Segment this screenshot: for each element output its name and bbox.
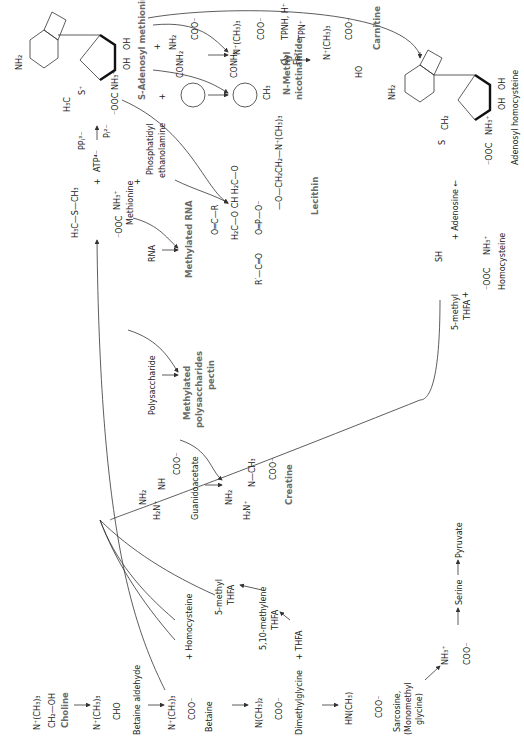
svg-text:+ Homocysteine: + Homocysteine: [185, 594, 194, 660]
arrow: [425, 666, 440, 680]
svg-text:glycine): glycine): [415, 693, 424, 725]
svg-text:THFA: THFA: [463, 299, 472, 321]
svg-text:CHO: CHO: [113, 702, 122, 720]
svg-text:N—CH₃: N—CH₃: [248, 458, 257, 487]
arrow-betaine-to-methionine: [97, 240, 165, 690]
svg-text:NH₃⁺: NH₃⁺: [113, 191, 122, 210]
svg-text:+: +: [133, 178, 142, 185]
arrow: [133, 218, 178, 248]
choline: N⁺(CH₃)₃ CH₂—OH Choline: [33, 692, 70, 730]
svg-text:N⁺(CH₃)₃: N⁺(CH₃)₃: [93, 696, 102, 730]
svg-text:O═C—R: O═C—R: [211, 204, 220, 235]
svg-text:PPᵢ³⁻: PPᵢ³⁻: [78, 131, 87, 150]
pyruvate-label: Pyruvate: [455, 522, 464, 558]
svg-text:N(CH₃)₂: N(CH₃)₂: [255, 698, 264, 728]
svg-text:THFA: THFA: [227, 584, 236, 606]
adenosine-label: + Adenosine ←: [451, 180, 460, 240]
svg-text:polysaccharides: polysaccharides: [194, 351, 204, 428]
svg-text:+ THFA: + THFA: [295, 630, 304, 660]
arrow-homocysteine-loop: [420, 300, 440, 400]
svg-text:CH₃: CH₃: [263, 85, 272, 100]
ribose-ring: [458, 75, 475, 120]
arrow: [100, 520, 175, 620]
arrow-sam-to-lecithin: [122, 100, 228, 203]
svg-text:NH₂: NH₂: [388, 85, 397, 100]
svg-text:COO⁻: COO⁻: [345, 18, 354, 40]
methyl-thfa-right: 5-methyl THFA +: [451, 291, 472, 330]
svg-text:H₂C—O CH H₂C—O: H₂C—O CH H₂C—O: [231, 165, 240, 240]
phosphatidyl-ethanolamine: + Phosphatidyl ethanolamine: [133, 123, 167, 185]
purine-ring: [405, 65, 434, 102]
methylated-rna-label: Methylated RNA: [184, 200, 194, 278]
svg-text:NH₃⁺: NH₃⁺: [441, 646, 450, 665]
svg-text:Carnitine: Carnitine: [372, 6, 382, 50]
thfa-cofactors: 5,10-methylene THFA 5-methyl THFA: [215, 579, 280, 650]
svg-text:Methylated: Methylated: [182, 366, 192, 420]
svg-text:Lecithin: Lecithin: [310, 177, 320, 215]
svg-text:5-methyl: 5-methyl: [451, 294, 460, 330]
svg-text:N⁺(CH₃)₃: N⁺(CH₃)₃: [168, 696, 177, 730]
svg-text:Creatine: Creatine: [284, 464, 294, 505]
svg-text:OH: OH: [498, 78, 507, 90]
svg-text:⁻OOC: ⁻OOC: [485, 142, 494, 165]
rna-label: RNA: [148, 244, 157, 262]
betaine: N⁺(CH₃)₃ COO⁻ Betaine + Homocysteine: [168, 594, 214, 732]
svg-text:NH₃⁺: NH₃⁺: [485, 116, 494, 135]
svg-text:NH₃⁺: NH₃⁺: [111, 71, 120, 90]
arrow: [153, 70, 228, 93]
ribose-bold-edge: [475, 75, 490, 120]
svg-text:TPN⁺: TPN⁺: [298, 20, 307, 41]
serine-label: Serine: [455, 579, 464, 605]
svg-text:COO⁻: COO⁻: [269, 458, 278, 480]
svg-text:CH₂—OH: CH₂—OH: [48, 693, 57, 728]
svg-text:COO⁻: COO⁻: [375, 696, 384, 718]
atp: + ATP⁴⁻ PPᵢ³⁻ Pᵢ²⁻: [78, 124, 112, 185]
imidazole-ring: [44, 12, 66, 40]
lecithin: O═C—R H₂C—O CH H₂C—O O═P—O⁻ —O—CH₂CH₂—N⁺…: [211, 116, 320, 285]
svg-text:N⁺(CH₃)₃: N⁺(CH₃)₃: [323, 26, 332, 60]
svg-text:H₃C: H₃C: [63, 97, 72, 112]
svg-text:NH₂: NH₂: [169, 35, 178, 50]
svg-text:Guanidoacetate: Guanidoacetate: [191, 456, 200, 520]
creatine: NH₂ H₂N⁺ N—CH₃ COO⁻ Creatine: [225, 458, 294, 520]
ribose-ring: [80, 35, 100, 80]
carnitine: N⁺(CH₃)₃ COO⁻ HO Carnitine: [323, 6, 382, 78]
svg-text:+: +: [93, 178, 102, 185]
svg-text:R′—C═O: R′—C═O: [255, 253, 264, 285]
svg-text:NH₂: NH₂: [139, 490, 148, 505]
svg-text:Betaine aldehyde: Betaine aldehyde: [133, 665, 142, 735]
svg-text:HN(CH₃): HN(CH₃): [345, 692, 354, 725]
svg-text:—O—CH₂CH₂—N⁺(CH₃)₃: —O—CH₂CH₂—N⁺(CH₃)₃: [275, 116, 284, 210]
sarcosine: HN(CH₃) COO⁻ Sarcosine, (Monomethyl glyc…: [345, 682, 424, 735]
arrow: [280, 612, 290, 620]
svg-text:5-methyl: 5-methyl: [215, 579, 224, 615]
svg-text:Methionine: Methionine: [126, 180, 135, 225]
svg-text:Choline: Choline: [60, 692, 70, 728]
svg-text:COO⁻: COO⁻: [257, 18, 266, 40]
svg-text:ATP⁴⁻: ATP⁴⁻: [93, 150, 102, 172]
svg-text:nicotinamide: nicotinamide: [294, 38, 304, 100]
svg-text:Sarcosine,: Sarcosine,: [393, 691, 402, 732]
svg-text:COO⁻: COO⁻: [173, 453, 182, 475]
adenosyl-homocysteine: NH₂ OH OH CH₂ S ⁻OOC NH₃⁺ Adenosyl homoc…: [388, 50, 520, 165]
imidazole-ring: [420, 50, 442, 75]
svg-text:+: +: [461, 291, 470, 298]
svg-text:COO⁻: COO⁻: [188, 698, 197, 720]
svg-text:Phosphatidyl: Phosphatidyl: [146, 124, 155, 175]
svg-text:Pᵢ²⁻: Pᵢ²⁻: [103, 124, 112, 138]
svg-text:H₂N⁺: H₂N⁺: [153, 501, 162, 520]
svg-text:OH: OH: [123, 58, 132, 70]
svg-text:COO⁻: COO⁻: [275, 698, 284, 720]
svg-text:CH₂: CH₂: [441, 115, 450, 130]
svg-text:NH₂: NH₂: [15, 55, 24, 70]
guanidoacetate: NH₂ H₂N⁺ NH COO⁻ Guanidoacetate: [139, 453, 200, 520]
svg-text:+: +: [158, 93, 167, 100]
svg-text:N⁺(CH₃)₃: N⁺(CH₃)₃: [33, 696, 42, 730]
svg-text:⁻OOC: ⁻OOC: [111, 92, 120, 115]
svg-text:S⁺: S⁺: [78, 86, 87, 95]
svg-text:5,10-methylene: 5,10-methylene: [259, 586, 268, 650]
svg-text:Adenosyl homocysteine: Adenosyl homocysteine: [511, 70, 520, 165]
svg-text:Homocysteine: Homocysteine: [498, 233, 507, 290]
arrow: [175, 180, 228, 203]
svg-text:⁻OOC: ⁻OOC: [483, 267, 492, 290]
